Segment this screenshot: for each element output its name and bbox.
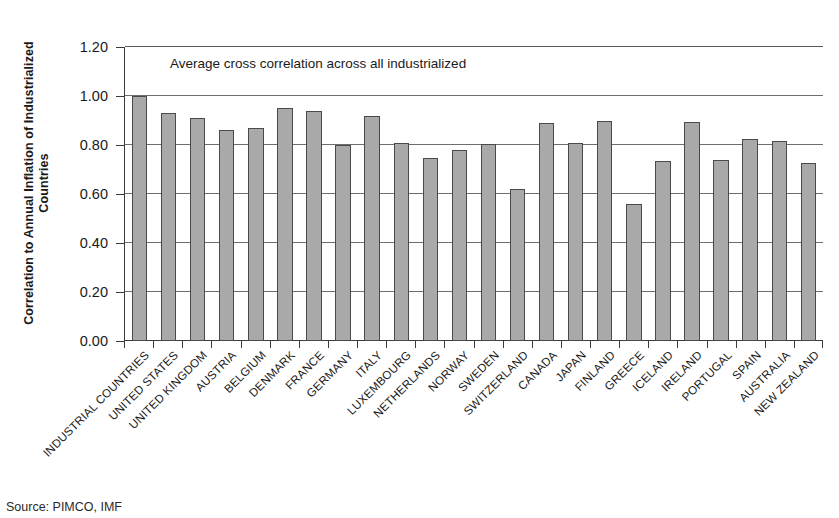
bar-slot xyxy=(387,47,416,341)
bar xyxy=(277,108,292,341)
x-axis-tick-mark xyxy=(765,341,794,348)
x-axis-tick-mark xyxy=(241,341,270,348)
bar-slot xyxy=(241,47,270,341)
bar-slot xyxy=(707,47,736,341)
bar xyxy=(481,144,496,341)
bar xyxy=(539,123,554,341)
x-axis-tick-mark xyxy=(299,341,328,348)
bar-slot xyxy=(416,47,445,341)
bar xyxy=(423,158,438,341)
y-axis-tick-label: 0.60 xyxy=(80,186,108,202)
x-axis-tick-mark xyxy=(648,341,677,348)
bar xyxy=(394,143,409,341)
bar-slot xyxy=(736,47,765,341)
y-axis-tick-label: 1.00 xyxy=(80,88,108,104)
bar-slot xyxy=(503,47,532,341)
bar xyxy=(568,143,583,341)
source-note: Source: PIMCO, IMF xyxy=(6,500,122,514)
bar-slot xyxy=(299,47,328,341)
x-axis-tick-mark xyxy=(270,341,299,348)
x-axis-tick-mark xyxy=(677,341,706,348)
bar xyxy=(219,130,234,341)
x-axis-tick-mark xyxy=(590,341,619,348)
bar-slot xyxy=(590,47,619,341)
bar-slot xyxy=(154,47,183,341)
bar xyxy=(742,139,757,341)
bar-slot xyxy=(648,47,677,341)
x-axis-tick-mark xyxy=(328,341,357,348)
y-axis-tick-label: 0.80 xyxy=(80,137,108,153)
x-axis-tick-mark xyxy=(124,341,153,348)
bar xyxy=(684,122,699,341)
x-axis-tick-mark xyxy=(357,341,386,348)
bar xyxy=(597,121,612,342)
bar-slot xyxy=(183,47,212,341)
bar-slot xyxy=(358,47,387,341)
bar xyxy=(132,96,147,341)
bar-slot xyxy=(794,47,823,341)
x-axis-tick-mark xyxy=(707,341,736,348)
x-axis-tick-mark xyxy=(415,341,444,348)
bar-slot xyxy=(445,47,474,341)
bar xyxy=(248,128,263,341)
bar-slot xyxy=(561,47,590,341)
x-axis-tick-mark xyxy=(211,341,240,348)
x-axis-tick-mark xyxy=(503,341,532,348)
x-axis-tick-mark xyxy=(386,341,415,348)
x-axis-tick-mark xyxy=(474,341,503,348)
bar xyxy=(713,160,728,341)
bar xyxy=(190,118,205,341)
x-axis-tick-mark xyxy=(619,341,648,348)
x-axis-tick-mark xyxy=(532,341,561,348)
bar xyxy=(772,141,787,341)
y-axis-tick-label: 0.40 xyxy=(80,235,108,251)
x-axis-tick-mark xyxy=(444,341,473,348)
bar-slot xyxy=(212,47,241,341)
y-axis-tick-label: 0.00 xyxy=(80,333,108,349)
x-axis-tick-mark xyxy=(182,341,211,348)
x-axis-tick-mark xyxy=(794,341,823,348)
y-axis-tick-label: 1.20 xyxy=(80,39,108,55)
x-axis-tick-mark xyxy=(561,341,590,348)
bar-slot xyxy=(677,47,706,341)
bar xyxy=(335,145,350,341)
bar-slot xyxy=(474,47,503,341)
bar-slot xyxy=(619,47,648,341)
bar xyxy=(452,150,467,341)
bar xyxy=(364,116,379,341)
bar-slot xyxy=(765,47,794,341)
x-axis-tick-mark xyxy=(153,341,182,348)
bar xyxy=(655,161,670,341)
bar-slot xyxy=(270,47,299,341)
y-axis-tick-label: 0.20 xyxy=(80,284,108,300)
bar-slot xyxy=(329,47,358,341)
bar xyxy=(510,189,525,341)
bar-slot xyxy=(532,47,561,341)
bar-slot xyxy=(125,47,154,341)
x-axis-tick-mark xyxy=(736,341,765,348)
bar xyxy=(161,113,176,341)
bar xyxy=(306,111,321,341)
bar xyxy=(626,204,641,341)
chart-annotation: Average cross correlation across all ind… xyxy=(170,56,466,71)
bar-series xyxy=(125,47,823,341)
bar xyxy=(801,163,816,341)
plot-area xyxy=(124,47,823,341)
